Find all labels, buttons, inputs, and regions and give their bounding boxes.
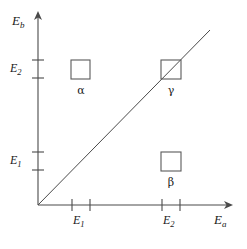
x-tick-label-e2: E2 (163, 214, 175, 226)
y-tick-label-e1: E1 (10, 154, 22, 166)
y-tick-label-e2-subscript: 2 (17, 67, 21, 77)
plot-canvas (0, 0, 247, 249)
region-box-alpha (71, 60, 90, 79)
identity-diagonal-line (38, 30, 210, 205)
x-tick-label-e1-subscript: 1 (80, 219, 84, 229)
y-axis-label: Eb (12, 14, 24, 27)
x-axis-label: Ea (214, 213, 226, 226)
y-tick-label-e1-subscript: 1 (17, 159, 21, 169)
region-box-beta (161, 152, 181, 171)
region-label-alpha: α (70, 85, 92, 96)
y-axis-label-text: E (12, 13, 20, 28)
energy-band-diagram: Eb Ea E2 E1 E1 E2 α γ β (0, 0, 247, 249)
x-tick-label-e1: E1 (73, 214, 85, 226)
region-label-gamma: γ (160, 85, 182, 96)
region-label-beta: β (160, 177, 182, 188)
x-tick-label-e2-subscript: 2 (170, 219, 174, 229)
y-tick-label-e2: E2 (10, 62, 22, 74)
x-axis-label-text: E (214, 212, 222, 227)
y-axis-label-subscript: b (20, 20, 25, 30)
x-axis-label-subscript: a (222, 219, 227, 229)
